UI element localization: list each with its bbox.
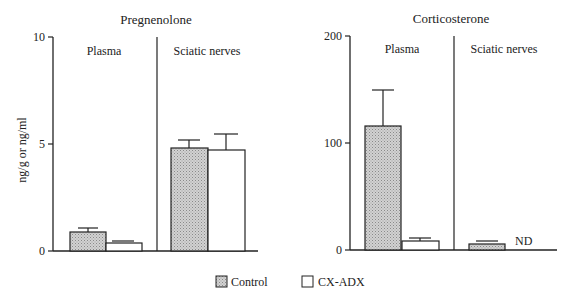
legend: Control CX-ADX	[216, 275, 365, 289]
bar-control-sciatic	[171, 148, 208, 251]
y-tick-label: 200	[324, 29, 342, 43]
group-label-sciatic: Sciatic nerves	[174, 44, 241, 58]
legend-swatch-control	[216, 276, 227, 287]
legend-label-control: Control	[231, 275, 268, 289]
bar-cxadx-plasma	[106, 243, 142, 251]
legend-swatch-cxadx	[302, 276, 313, 287]
legend-label-cxadx: CX-ADX	[318, 275, 365, 289]
bar-cxadx-sciatic	[208, 150, 245, 251]
bar-control-plasma	[70, 232, 106, 251]
y-tick-label: 0	[336, 243, 342, 257]
y-tick-label: 10	[33, 30, 45, 44]
pregnenolone-chart: Pregnenolone 10 5 0 ng/g or ng/ml Plasma…	[15, 12, 258, 258]
bar-cxadx-plasma	[402, 241, 439, 250]
bar-control-sciatic	[469, 244, 505, 250]
bar-control-plasma	[365, 126, 401, 250]
group-label-sciatic: Sciatic nerves	[471, 42, 538, 56]
group-label-plasma: Plasma	[385, 42, 420, 56]
y-tick-label: 5	[39, 137, 45, 151]
y-axis-label: ng/g or ng/ml	[15, 117, 29, 183]
chart-title: Pregnenolone	[120, 12, 192, 27]
not-detected-label: ND	[515, 234, 533, 248]
y-tick-label: 100	[324, 136, 342, 150]
figure: Pregnenolone 10 5 0 ng/g or ng/ml Plasma…	[0, 0, 568, 302]
y-tick-label: 0	[39, 244, 45, 258]
group-label-plasma: Plasma	[87, 44, 122, 58]
chart-title: Corticosterone	[413, 11, 490, 26]
corticosterone-chart: Corticosterone 200 100 0 Plasma Sciatic …	[324, 11, 557, 257]
